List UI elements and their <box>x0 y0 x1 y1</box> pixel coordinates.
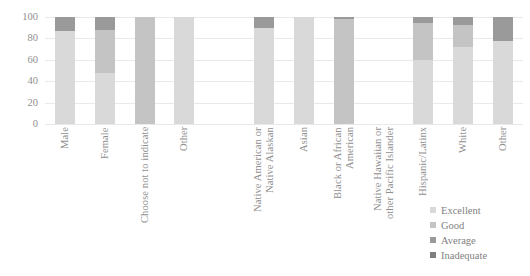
x-axis-label: Hispanic/Latinx <box>417 127 429 242</box>
legend-label: Excellent <box>441 205 481 216</box>
bar-segment-average <box>453 17 473 24</box>
bar-column <box>294 17 314 124</box>
plot-area <box>45 17 523 124</box>
bar-stack <box>294 17 314 124</box>
y-axis-tick-20: 20 <box>28 98 39 108</box>
x-axis-label: Native American or Native Alaskan <box>252 127 276 242</box>
bar-segment-excellent <box>95 73 115 124</box>
y-axis-tick-40: 40 <box>28 76 39 86</box>
bar-segment-excellent <box>254 28 274 124</box>
legend-swatch-icon <box>430 252 436 258</box>
bar-segment-excellent <box>493 41 513 124</box>
x-axis-label: Black or African American <box>332 127 356 242</box>
bar-stack <box>413 17 433 124</box>
legend-label: Average <box>441 235 476 246</box>
legend-item[interactable]: Good <box>430 218 528 232</box>
x-axis-label: Female <box>99 127 111 242</box>
x-axis-label: Native Hawaiian or other Pacific Islande… <box>372 127 396 242</box>
legend-label: Good <box>441 220 464 231</box>
bar-segment-average <box>334 17 354 19</box>
bar-column <box>453 17 473 124</box>
bar-segment-good <box>135 17 155 124</box>
legend-swatch-icon <box>430 207 436 213</box>
bar-segment-average <box>95 17 115 30</box>
legend-swatch-icon <box>430 222 436 228</box>
bar-segment-excellent <box>55 31 75 124</box>
y-axis-tick-0: 0 <box>33 119 38 129</box>
bar-column <box>254 17 274 124</box>
bar-segment-average <box>413 17 433 23</box>
legend-item[interactable]: Inadequate <box>430 248 528 262</box>
bar-column <box>174 17 194 124</box>
bar-column <box>214 17 234 124</box>
stacked-bar-chart: 020406080100 MaleFemaleChoose not to ind… <box>0 0 530 276</box>
bar-segment-good <box>334 19 354 124</box>
y-axis-tick-100: 100 <box>22 12 38 22</box>
bar-segment-excellent <box>413 60 433 124</box>
bar-stack <box>95 17 115 124</box>
legend-item[interactable]: Average <box>430 233 528 247</box>
bar-segment-good <box>413 23 433 59</box>
bar-column <box>135 17 155 124</box>
bar-segment-good <box>95 30 115 73</box>
bar-stack <box>135 17 155 124</box>
x-axis-label: Choose not to indicate <box>139 127 151 242</box>
legend: ExcellentGoodAverageInadequate <box>430 203 528 263</box>
gridline-0 <box>45 124 523 125</box>
bar-column <box>55 17 75 124</box>
y-axis: 020406080100 <box>0 0 45 141</box>
bar-stack <box>254 17 274 124</box>
legend-label: Inadequate <box>441 250 487 261</box>
legend-item[interactable]: Excellent <box>430 203 528 217</box>
bar-stack <box>453 17 473 124</box>
bar-column <box>95 17 115 124</box>
bar-segment-good <box>453 25 473 47</box>
bar-segment-average <box>254 17 274 28</box>
bars-layer <box>45 17 523 124</box>
x-axis-label: Asian <box>298 127 310 242</box>
bar-stack <box>334 17 354 124</box>
y-axis-tick-80: 80 <box>28 33 39 43</box>
bar-segment-average <box>55 17 75 31</box>
bar-column <box>334 17 354 124</box>
bar-segment-excellent <box>294 17 314 124</box>
bar-stack <box>174 17 194 124</box>
x-axis-label: Other <box>178 127 190 242</box>
bar-stack <box>493 17 513 124</box>
bar-segment-average <box>493 17 513 41</box>
bar-column <box>413 17 433 124</box>
legend-swatch-icon <box>430 237 436 243</box>
bar-segment-excellent <box>174 17 194 124</box>
bar-column <box>374 17 394 124</box>
bar-segment-excellent <box>453 47 473 124</box>
x-axis-label: Male <box>59 127 71 242</box>
bar-stack <box>55 17 75 124</box>
y-axis-tick-60: 60 <box>28 55 39 65</box>
bar-column <box>493 17 513 124</box>
